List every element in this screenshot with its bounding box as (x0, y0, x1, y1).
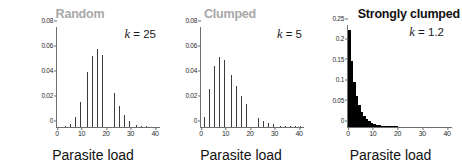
x-axis-tick: 10 (369, 127, 376, 137)
panel-title: Random (0, 7, 160, 21)
x-axis-label: Parasite load (150, 147, 310, 163)
chart-panel-strongly-clumped: Strongly clumped k = 1.2 00.050.10.150.2… (305, 0, 462, 164)
plot-area: 00.020.040.060.08010203040 (56, 27, 160, 128)
x-axis-tick: 10 (222, 127, 229, 137)
x-axis-tick: 20 (246, 127, 253, 137)
plot-area: 00.050.10.150.20.25010203040 (347, 25, 452, 128)
x-axis-tick: 40 (443, 127, 450, 137)
y-axis-tick: 0.02 (186, 92, 201, 99)
y-axis-tick: 0 (194, 117, 201, 124)
y-axis-tick: 0 (50, 117, 57, 124)
y-axis-tick: 0.08 (186, 17, 201, 24)
x-axis-label: Parasite load (305, 147, 462, 163)
y-axis-tick: 0.06 (42, 42, 57, 49)
panel-title: Clumped (150, 7, 310, 21)
x-axis-tick: 30 (271, 127, 278, 137)
x-axis-tick: 20 (394, 127, 401, 137)
bars-group (57, 27, 160, 127)
bars-group (201, 27, 304, 127)
plot-area: 00.020.040.060.08010203040 (200, 27, 304, 128)
y-axis-tick: 0.1 (336, 76, 348, 83)
x-axis-label: Parasite load (0, 147, 160, 163)
x-axis-tick: 40 (296, 127, 303, 137)
x-axis-tick: 30 (419, 127, 426, 137)
x-axis-tick: 30 (127, 127, 134, 137)
x-axis-tick: 0 (346, 127, 350, 137)
y-axis-tick: 0.05 (333, 96, 348, 103)
y-axis-tick: 0.04 (42, 67, 57, 74)
figure-container: Random k = 25 Frequency 00.020.040.060.0… (0, 0, 462, 164)
x-axis-tick: 0 (55, 127, 59, 137)
y-axis-tick: 0.04 (186, 67, 201, 74)
bars-group (348, 25, 452, 127)
panel-title: Strongly clumped (305, 7, 462, 21)
y-axis-tick: 0 (341, 117, 348, 124)
x-axis-tick: 20 (102, 127, 109, 137)
y-axis-tick: 0.02 (42, 92, 57, 99)
x-axis-tick: 0 (199, 127, 203, 137)
y-axis-tick: 0.15 (333, 55, 348, 62)
chart-panel-clumped: Clumped k = 5 00.020.040.060.08010203040… (150, 0, 310, 164)
y-axis-tick: 0.06 (186, 42, 201, 49)
y-axis-tick: 0.08 (42, 17, 57, 24)
y-axis-tick: 0.2 (336, 35, 348, 42)
chart-panel-random: Random k = 25 Frequency 00.020.040.060.0… (0, 0, 160, 164)
x-axis-tick: 10 (78, 127, 85, 137)
y-axis-tick: 0.25 (333, 15, 348, 22)
